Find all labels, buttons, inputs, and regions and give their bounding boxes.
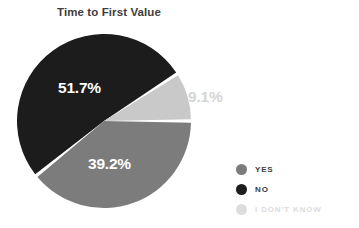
legend-item-no[interactable]: NO xyxy=(236,180,354,199)
pie-chart-graphic xyxy=(17,34,191,208)
legend-swatch-circle-icon-no xyxy=(236,184,247,195)
legend-item-yes[interactable]: YES xyxy=(236,160,354,179)
legend-label-no: NO xyxy=(255,185,269,194)
legend-label-i-dont-know: I DON'T KNOW xyxy=(255,205,322,214)
pie-slice-label-i-dont-know: 9.1% xyxy=(188,88,223,106)
legend-label-yes: YES xyxy=(255,165,274,174)
legend-swatch-circle-icon-i-dont-know xyxy=(236,204,247,215)
pie-slices xyxy=(17,34,191,208)
chart-title: Time to First Value xyxy=(57,6,161,18)
pie-svg xyxy=(17,34,191,208)
chart-legend: YES NO I DON'T KNOW xyxy=(236,160,354,220)
legend-item-i-dont-know[interactable]: I DON'T KNOW xyxy=(236,200,354,219)
pie-chart-figure: Time to First Value 51.7% 39.2% 9.1% YES… xyxy=(0,0,359,228)
legend-swatch-circle-icon-yes xyxy=(236,164,247,175)
